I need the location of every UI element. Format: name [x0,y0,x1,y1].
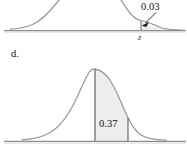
top-area-probability-label: 0.03 [141,2,159,13]
figure-canvas: 0.03 z d. 0.37 [0,0,187,148]
top-callout-arrow-shaft [146,13,157,24]
item-letter-label: d. [11,49,19,60]
bottom-area-probability-label: 0.37 [99,119,117,130]
bottom-diagram-group [4,69,186,143]
top-left-curve-segment [10,0,64,29]
bottom-shaded-area [95,69,128,141]
bottom-normal-curve [22,69,166,140]
distribution-figure [0,0,187,148]
top-axis-z-label: z [138,33,141,42]
